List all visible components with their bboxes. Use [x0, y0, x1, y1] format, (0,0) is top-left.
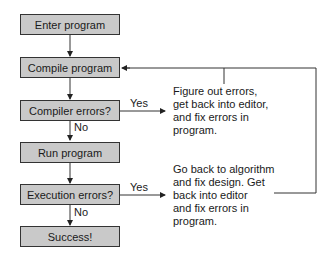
label-execution-yes: Yes: [130, 181, 148, 193]
decision-execution-errors: Execution errors?: [20, 184, 120, 205]
note-compiler-fix: Figure out errors, get back into editor,…: [173, 85, 268, 137]
step-success: Success!: [20, 226, 120, 247]
label-compiler-no: No: [74, 121, 88, 133]
flowchart-connectors: [0, 0, 335, 261]
note-execution-fix: Go back to algorithm and fix design. Get…: [173, 163, 275, 228]
step-compile-program: Compile program: [20, 57, 120, 78]
label-compiler-yes: Yes: [130, 97, 148, 109]
label-execution-no: No: [74, 206, 88, 218]
decision-compiler-errors: Compiler errors?: [20, 100, 120, 121]
step-enter-program: Enter program: [20, 14, 120, 35]
step-run-program: Run program: [20, 142, 120, 163]
